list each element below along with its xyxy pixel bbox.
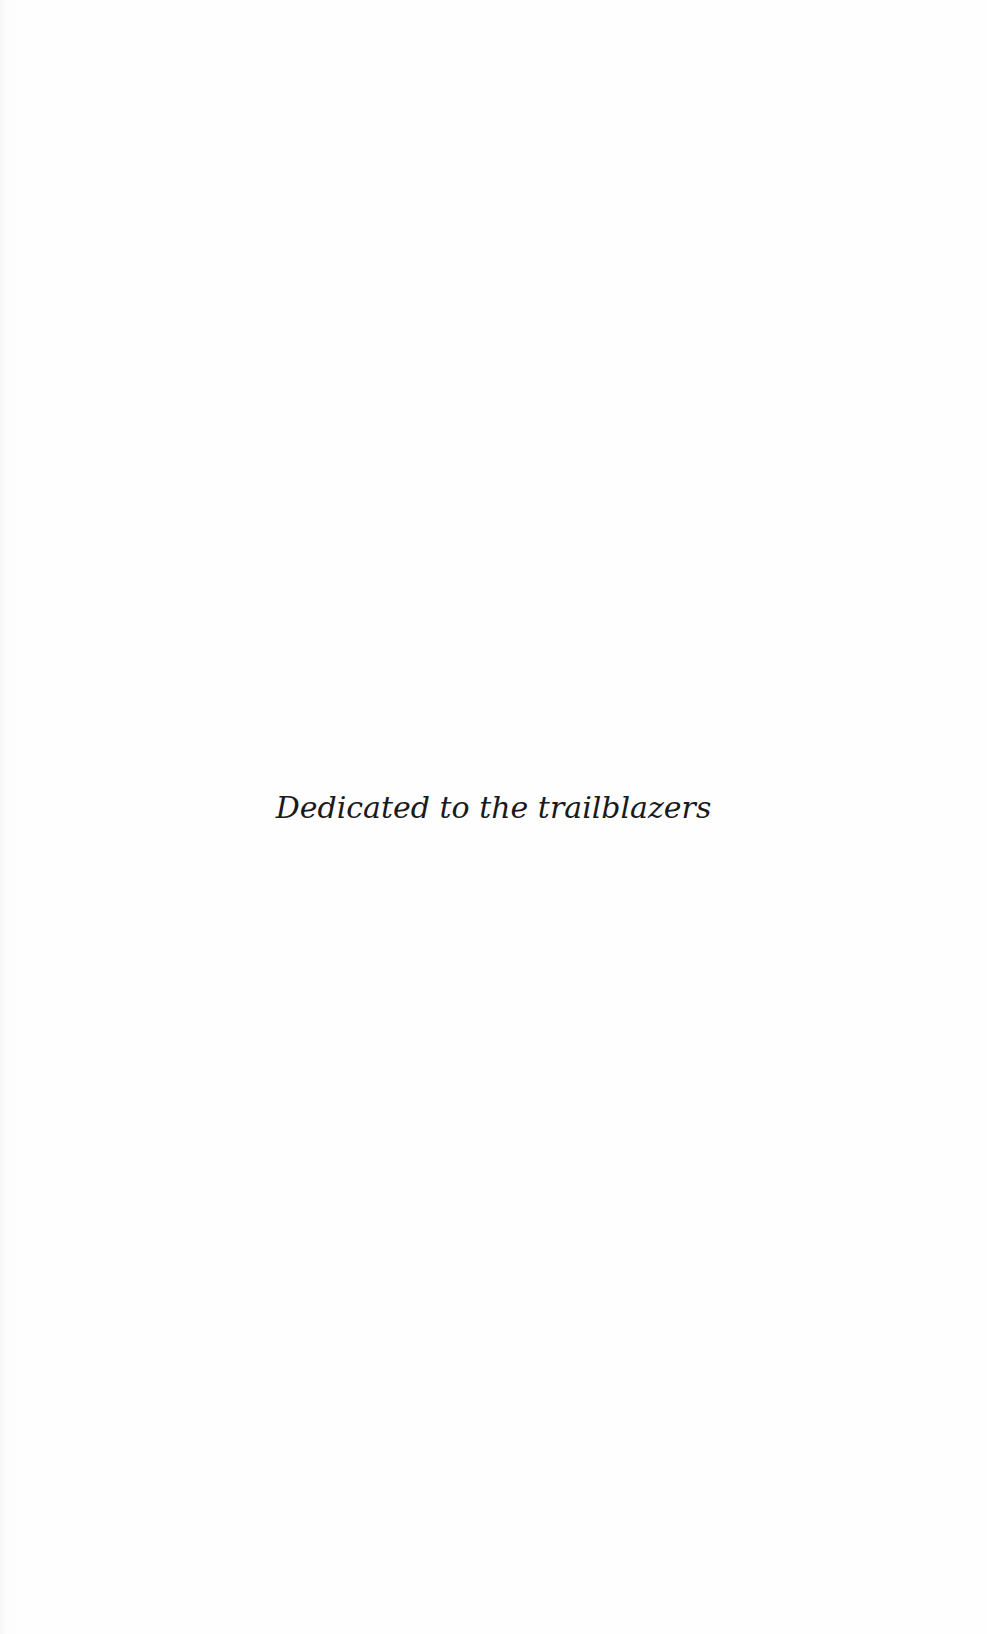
dedication-text: Dedicated to the trailblazers	[0, 790, 987, 826]
book-page: Dedicated to the trailblazers	[0, 0, 987, 1634]
